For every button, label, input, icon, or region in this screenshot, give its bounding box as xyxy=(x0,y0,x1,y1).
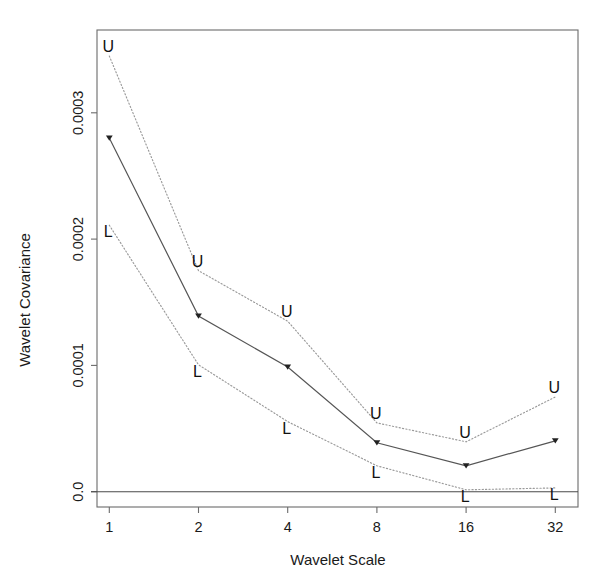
point-label-u-1: U xyxy=(192,253,204,270)
x-tick-label-0: 1 xyxy=(105,519,113,535)
point-label-u-2: U xyxy=(281,303,293,320)
point-label-u-3: U xyxy=(370,405,382,422)
y-axis-tick-labels: 0.0 0.0001 0.0002 0.0003 xyxy=(70,91,86,502)
data-point-marker-4 xyxy=(463,463,470,468)
x-tick-label-3: 8 xyxy=(373,519,381,535)
point-label-u-5: U xyxy=(549,379,561,396)
plot-canvas: 0.0 0.0001 0.0002 0.0003 Wavelet Covaria… xyxy=(0,0,606,587)
series-layer xyxy=(106,56,559,490)
point-label-u-4: U xyxy=(459,424,471,441)
x-tick-label-1: 2 xyxy=(194,519,202,535)
y-tick-label-3: 0.0003 xyxy=(70,91,86,135)
y-axis-ticks xyxy=(91,113,97,492)
point-label-l-0: L xyxy=(104,223,113,240)
series-line-1 xyxy=(109,138,555,466)
wavelet-covariance-chart: 0.0 0.0001 0.0002 0.0003 Wavelet Covaria… xyxy=(0,0,606,587)
point-label-l-2: L xyxy=(282,420,291,437)
point-label-l-5: L xyxy=(550,486,559,503)
x-tick-label-5: 32 xyxy=(547,519,563,535)
point-label-u-0: U xyxy=(103,38,115,55)
series-line-2 xyxy=(109,225,555,490)
x-tick-label-4: 16 xyxy=(458,519,474,535)
data-point-marker-0 xyxy=(106,135,113,140)
plot-frame xyxy=(97,30,578,507)
y-tick-label-1: 0.0001 xyxy=(70,343,86,387)
point-label-l-4: L xyxy=(461,488,470,505)
x-axis-ticks xyxy=(109,507,555,513)
point-label-layer: UUUUUULLLLLL xyxy=(103,38,561,505)
data-point-marker-5 xyxy=(552,438,559,443)
y-tick-label-0: 0.0 xyxy=(70,482,86,502)
point-label-l-1: L xyxy=(193,363,202,380)
y-tick-label-2: 0.0002 xyxy=(70,217,86,261)
point-label-l-3: L xyxy=(371,464,380,481)
series-line-0 xyxy=(109,56,555,442)
x-axis-tick-labels: 1 2 4 8 16 32 xyxy=(105,519,563,535)
x-axis-title: Wavelet Scale xyxy=(290,551,385,568)
y-axis-title: Wavelet Covariance xyxy=(16,233,33,367)
x-tick-label-2: 4 xyxy=(284,519,292,535)
